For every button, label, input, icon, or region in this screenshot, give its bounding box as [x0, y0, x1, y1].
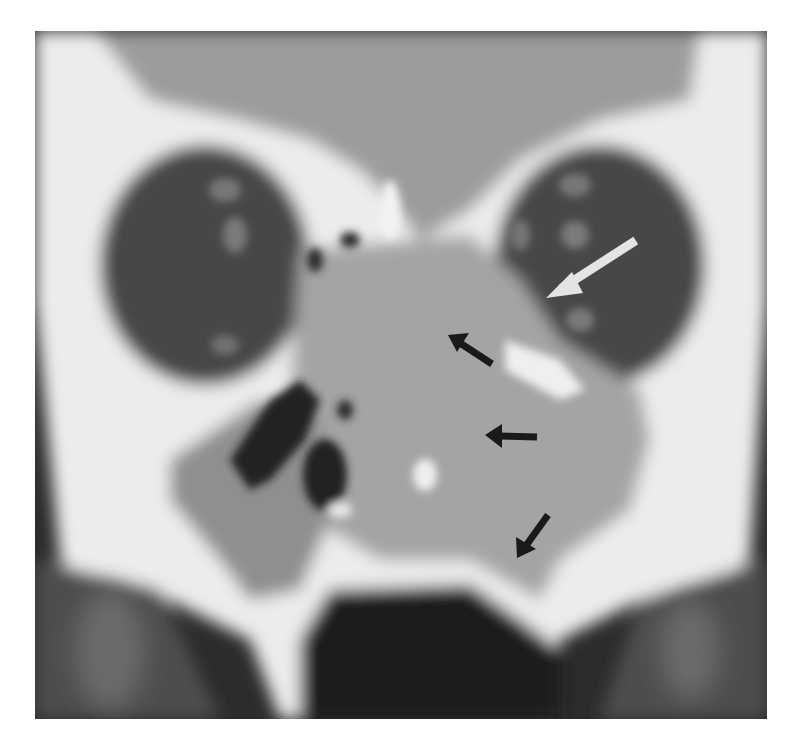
- ct-scan-image: [35, 31, 767, 719]
